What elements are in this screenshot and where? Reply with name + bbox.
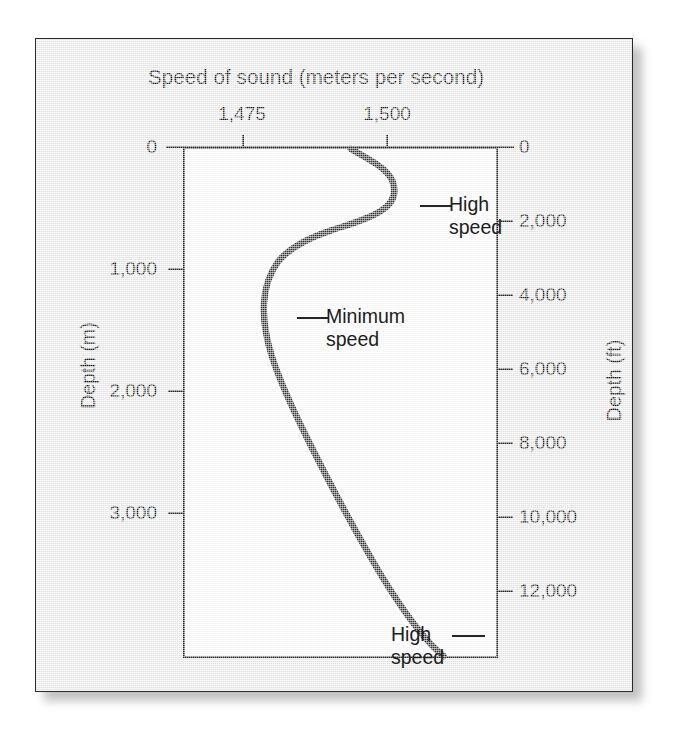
annotation-high-speed-top-line2: speed <box>449 216 502 239</box>
annotation-minimum-speed-line1: Minimum <box>326 305 405 328</box>
annotation-high-speed-bottom: High speed <box>391 623 444 669</box>
right-axis-title: Depth (ft) <box>603 301 626 461</box>
right-axis-tick-label-0: 0 <box>519 136 530 158</box>
left-axis-tick-2000 <box>168 390 183 392</box>
right-axis-tick-label-8000: 8,000 <box>519 432 567 454</box>
leader-line-high-speed-top <box>420 205 452 207</box>
left-axis-tick-label-2000: 2,000 <box>109 380 157 402</box>
left-axis-title: Depth (m) <box>77 286 100 446</box>
annotation-high-speed-bottom-line2: speed <box>391 646 444 669</box>
leader-line-high-speed-bottom <box>452 635 485 637</box>
right-axis-tick-8000 <box>498 442 513 444</box>
right-axis-tick-label-12000: 12,000 <box>519 580 577 602</box>
annotation-high-speed-top-line1: High <box>449 193 502 216</box>
right-axis-tick-0 <box>498 146 513 148</box>
top-axis-tick-label-1475: 1,475 <box>218 103 266 125</box>
top-axis-line <box>166 146 514 148</box>
annotation-minimum-speed: Minimum speed <box>326 305 405 351</box>
left-axis-tick-3000 <box>168 512 183 514</box>
left-axis-tick-label-3000: 3,000 <box>109 502 157 524</box>
top-axis-tick-1475 <box>242 135 244 146</box>
right-axis-tick-label-4000: 4,000 <box>519 284 567 306</box>
sound-speed-curve-path <box>264 149 444 656</box>
annotation-high-speed-top: High speed <box>449 193 502 239</box>
right-axis-tick-4000 <box>498 294 513 296</box>
right-axis-tick-label-10000: 10,000 <box>519 506 577 528</box>
figure-panel: Speed of sound (meters per second) 1,475… <box>35 38 633 692</box>
left-axis-tick-0 <box>168 146 183 148</box>
top-axis-tick-1500 <box>386 135 388 146</box>
right-axis-tick-label-2000: 2,000 <box>519 210 567 232</box>
chart-title: Speed of sound (meters per second) <box>36 65 596 89</box>
top-axis-tick-label-1500: 1,500 <box>363 103 411 125</box>
left-axis-tick-1000 <box>168 268 183 270</box>
left-axis-tick-label-1000: 1,000 <box>109 258 157 280</box>
right-axis-tick-6000 <box>498 368 513 370</box>
left-axis-tick-label-0: 0 <box>146 136 157 158</box>
right-axis-tick-12000 <box>498 590 513 592</box>
leader-line-minimum-speed <box>297 317 329 319</box>
right-axis-tick-label-6000: 6,000 <box>519 358 567 380</box>
annotation-minimum-speed-line2: speed <box>326 328 405 351</box>
annotation-high-speed-bottom-line1: High <box>391 623 444 646</box>
right-axis-tick-10000 <box>498 516 513 518</box>
